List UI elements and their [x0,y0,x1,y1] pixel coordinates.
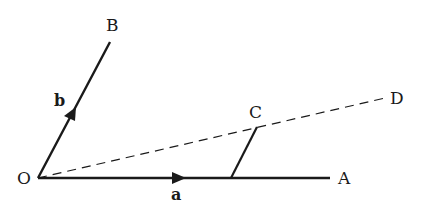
label-d: D [390,88,404,108]
label-o: O [17,168,31,188]
label-vector-b: b [54,91,65,110]
segment-od-dashed [38,98,385,178]
label-b: B [106,15,119,35]
label-vector-a: a [171,185,181,204]
label-a: A [337,168,351,188]
vector-diagram: O A B C D a b [0,0,424,217]
arrowhead-a-icon [172,172,186,184]
segment-fc [231,127,257,178]
label-c: C [249,102,262,122]
